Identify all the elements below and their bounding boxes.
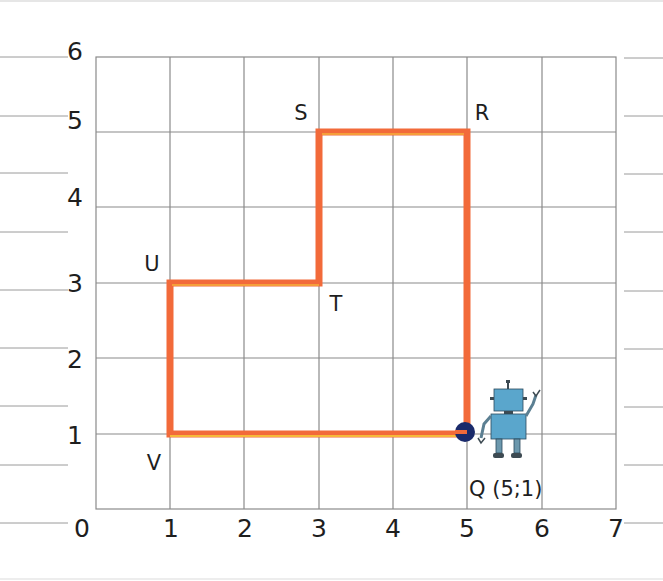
x-axis-ticks: 0 1 2 3 4 5 6 7 xyxy=(74,514,624,543)
x-tick-4: 4 xyxy=(385,514,401,543)
y-axis-ticks: 1 2 3 4 5 6 xyxy=(67,37,83,450)
x-tick-6: 6 xyxy=(534,514,550,543)
y-tick-5: 5 xyxy=(67,106,83,135)
point-label-s: S xyxy=(294,101,307,125)
y-tick-3: 3 xyxy=(67,269,83,298)
y-tick-6: 6 xyxy=(67,37,83,66)
point-label-v: V xyxy=(147,451,162,475)
point-label-u: U xyxy=(144,252,159,276)
point-label-q: Q (5;1) xyxy=(469,477,542,501)
x-tick-3: 3 xyxy=(311,514,327,543)
robot-icon xyxy=(478,380,540,458)
coordinate-grid-diagram: 0 1 2 3 4 5 6 7 1 2 3 4 5 6 S R T U V Q … xyxy=(0,0,663,581)
x-tick-5: 5 xyxy=(459,514,475,543)
y-tick-4: 4 xyxy=(67,183,83,212)
y-tick-1: 1 xyxy=(67,421,83,450)
x-tick-1: 1 xyxy=(163,514,179,543)
left-margin-lines xyxy=(0,57,68,523)
point-label-r: R xyxy=(475,101,490,125)
y-tick-2: 2 xyxy=(67,345,83,374)
point-label-t: T xyxy=(329,292,343,316)
x-tick-2: 2 xyxy=(237,514,253,543)
x-tick-7: 7 xyxy=(608,514,624,543)
x-tick-0: 0 xyxy=(74,514,90,543)
right-margin-lines xyxy=(624,58,663,523)
